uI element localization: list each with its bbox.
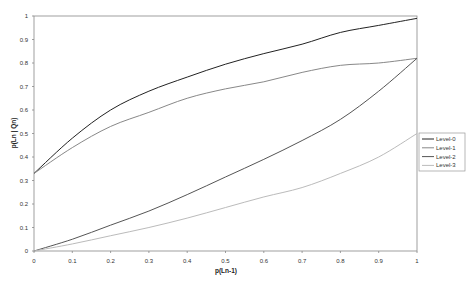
legend-label: Level-1 bbox=[436, 145, 456, 151]
legend-label: Level-2 bbox=[436, 154, 456, 160]
x-tick-label: 0.5 bbox=[221, 258, 230, 264]
y-axis: 00.10.20.30.40.50.60.70.80.91 bbox=[20, 13, 34, 254]
line-chart: 00.10.20.30.40.50.60.70.80.91 00.10.20.3… bbox=[0, 0, 470, 284]
x-tick-label: 0.8 bbox=[336, 258, 345, 264]
x-tick-label: 0.9 bbox=[375, 258, 384, 264]
y-tick-label: 0.4 bbox=[20, 154, 29, 160]
x-tick-label: 0 bbox=[32, 258, 36, 264]
y-tick-label: 1 bbox=[25, 13, 29, 19]
legend: Level-0Level-1Level-2Level-3 bbox=[419, 133, 465, 171]
x-axis-title: p(Ln-1) bbox=[215, 267, 237, 275]
x-tick-label: 0.2 bbox=[106, 258, 115, 264]
x-axis: 00.10.20.30.40.50.60.70.80.91 bbox=[32, 251, 419, 264]
y-tick-label: 0.3 bbox=[20, 178, 29, 184]
x-tick-label: 0.6 bbox=[260, 258, 269, 264]
y-tick-label: 0 bbox=[25, 248, 29, 254]
y-axis-title: p(Ln | Qn) bbox=[10, 118, 18, 149]
plot-area bbox=[34, 16, 417, 251]
x-tick-label: 0.1 bbox=[68, 258, 77, 264]
x-tick-label: 0.3 bbox=[145, 258, 154, 264]
y-tick-label: 0.2 bbox=[20, 201, 29, 207]
legend-label: Level-3 bbox=[436, 162, 456, 168]
legend-label: Level-0 bbox=[436, 136, 456, 142]
y-tick-label: 0.6 bbox=[20, 107, 29, 113]
y-tick-label: 0.7 bbox=[20, 84, 29, 90]
y-tick-label: 0.5 bbox=[20, 131, 29, 137]
plot-border bbox=[34, 16, 417, 251]
x-tick-label: 1 bbox=[415, 258, 419, 264]
y-tick-label: 0.8 bbox=[20, 60, 29, 66]
y-tick-label: 0.9 bbox=[20, 37, 29, 43]
y-tick-label: 0.1 bbox=[20, 225, 29, 231]
x-tick-label: 0.4 bbox=[183, 258, 192, 264]
x-tick-label: 0.7 bbox=[298, 258, 307, 264]
